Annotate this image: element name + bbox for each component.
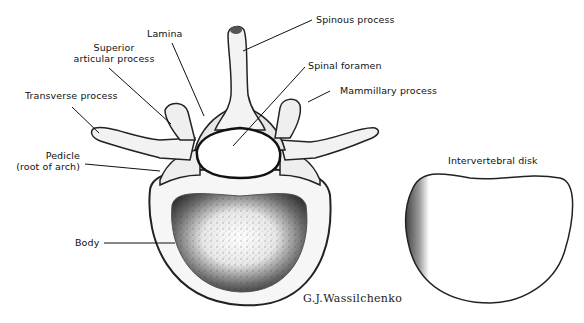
label-pedicle: Pedicle (root of arch) <box>14 150 80 172</box>
superior-articular-process-left <box>165 103 195 140</box>
transverse-process-right <box>280 128 378 160</box>
label-spinous-process: Spinous process <box>316 14 395 25</box>
label-body: Body <box>75 237 99 248</box>
vertebra-diagram: Spinous process Lamina Superior articula… <box>0 0 584 323</box>
intervertebral-disk <box>406 174 573 303</box>
spinal-foramen <box>197 128 280 178</box>
label-superior-articular-process: Superior articular process <box>66 42 162 64</box>
label-intervertebral-disk: Intervertebral disk <box>448 155 538 166</box>
label-lamina: Lamina <box>147 28 182 39</box>
label-mammillary-process: Mammillary process <box>340 85 437 96</box>
superior-articular-process-right <box>275 99 300 138</box>
label-transverse-process: Transverse process <box>25 90 118 101</box>
label-spinal-foramen: Spinal foramen <box>308 60 382 71</box>
artist-signature: G.J.Wassilchenko <box>303 292 402 305</box>
